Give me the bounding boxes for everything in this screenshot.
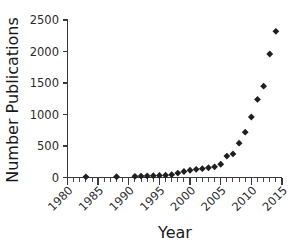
y-tick-label: 2500 [30, 13, 59, 27]
data-point [254, 96, 261, 103]
y-tick-labels: 05001000150020002500 [30, 13, 59, 185]
data-point [272, 28, 279, 35]
x-tick-label: 1980 [45, 183, 76, 214]
data-point [82, 173, 89, 180]
x-tick-label: 2010 [229, 183, 260, 214]
data-point [260, 83, 267, 90]
data-point [132, 173, 139, 180]
data-point [174, 170, 181, 177]
x-tick-label: 2005 [198, 183, 229, 214]
data-point [187, 167, 194, 174]
x-tick-labels: 19801985199019952000200520102015 [45, 183, 290, 214]
data-point [181, 168, 188, 175]
data-point [217, 161, 224, 168]
y-tick-label: 500 [37, 139, 59, 153]
data-point [193, 166, 200, 173]
data-point [248, 114, 255, 121]
x-axis-group: 19801985199019952000200520102015 [45, 178, 290, 214]
data-point [242, 129, 249, 136]
x-tick-label: 1985 [76, 183, 107, 214]
data-point [230, 150, 237, 157]
y-tick-label: 2000 [30, 45, 59, 59]
x-axis-label: Year [157, 223, 192, 242]
data-point-markers [82, 28, 279, 180]
data-point [223, 153, 230, 160]
data-point [113, 173, 120, 180]
publications-scatter-chart: 05001000150020002500 1980198519901995200… [0, 0, 299, 248]
x-tick-label: 2015 [260, 183, 291, 214]
x-tick-label: 1995 [137, 183, 168, 214]
y-axis-group: 05001000150020002500 [30, 13, 68, 185]
y-tick-label: 1500 [30, 76, 59, 90]
data-point [138, 173, 145, 180]
data-point [236, 140, 243, 147]
data-point [205, 164, 212, 171]
data-point [266, 51, 273, 58]
y-axis-label: Number Publications [3, 17, 22, 183]
x-tick-label: 2000 [168, 183, 199, 214]
y-tick-marks [63, 20, 68, 178]
x-tick-label: 1990 [106, 183, 137, 214]
chart-figure: 05001000150020002500 1980198519901995200… [0, 0, 299, 248]
y-tick-label: 0 [52, 171, 59, 185]
y-tick-label: 1000 [30, 108, 59, 122]
data-point [211, 163, 218, 170]
data-point [199, 165, 206, 172]
data-point [144, 173, 151, 180]
